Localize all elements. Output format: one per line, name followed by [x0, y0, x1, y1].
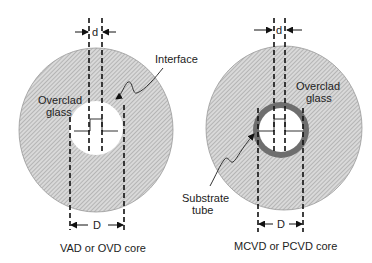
substrate-label-line1: Substrate: [182, 192, 229, 204]
vad-ovd-preform: d D Overclad glass Interface VAD or OVD …: [19, 18, 198, 254]
large-diameter-label: D: [277, 218, 285, 230]
fiber-preform-diagram: d D Overclad glass Interface VAD or OVD …: [0, 0, 372, 263]
mcvd-pcvd-preform: d D Overclad glass Substrate tube MCVD o…: [182, 18, 362, 252]
overclad-label-line2: glass: [306, 92, 332, 104]
small-diameter-label: d: [92, 26, 98, 38]
overclad-label-line1: Overclad: [38, 94, 82, 106]
overclad-label-line1: Overclad: [296, 80, 340, 92]
interface-label: Interface: [155, 53, 198, 65]
core-region: [69, 101, 123, 155]
core-region: [259, 108, 303, 152]
large-diameter-label: D: [93, 219, 101, 231]
substrate-label-line2: tube: [192, 204, 213, 216]
left-caption: VAD or OVD core: [60, 242, 146, 254]
right-caption: MCVD or PCVD core: [234, 240, 337, 252]
overclad-label-line2: glass: [46, 106, 72, 118]
small-diameter-label: d: [276, 24, 282, 36]
